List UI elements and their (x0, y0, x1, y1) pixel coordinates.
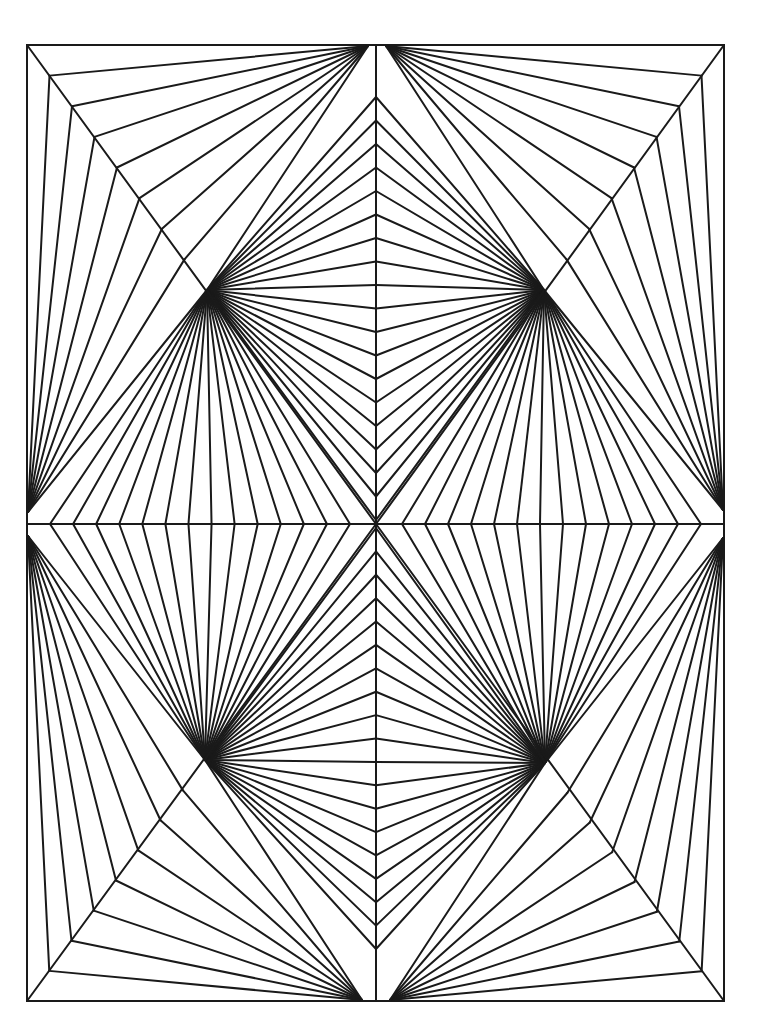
fan-line-to-vertical-axis (205, 760, 376, 832)
fan-line-to-horizontal-axis (188, 524, 205, 760)
fan-line-to-vertical-axis (376, 168, 544, 291)
fan-line-to-vertical-axis (376, 551, 545, 763)
fan-line-to-vertical-axis (207, 290, 376, 473)
fan-line-to-horizontal-axis (544, 290, 701, 524)
fan-line-to-horizontal-axis (50, 524, 205, 760)
fan-line-to-horizontal-axis (425, 524, 545, 763)
fan-line-to-vertical-axis (207, 97, 376, 290)
fan-line-to-vertical-axis (376, 763, 545, 902)
fan-line-to-vertical-axis (205, 760, 376, 879)
fan-line-to-vertical-axis (205, 760, 376, 762)
fan-line-to-horizontal-axis (205, 524, 212, 760)
fan-line-to-vertical-axis (376, 97, 544, 290)
fan-line-to-vertical-axis (376, 763, 545, 855)
fan-line-edge-to-diagonal (50, 46, 369, 76)
fan-line-edge-to-diagonal (386, 46, 702, 76)
fan-line-side-to-diagonal (28, 536, 116, 881)
fan-line-edge-to-diagonal (49, 971, 362, 1000)
fan-line-to-horizontal-axis (545, 524, 632, 763)
fan-line-to-vertical-axis (205, 551, 376, 760)
fan-line-to-vertical-axis (376, 763, 545, 926)
fan-line-to-horizontal-axis (205, 524, 327, 760)
fan-line-edge-to-diagonal (116, 881, 362, 1001)
line-art-drawing (0, 0, 759, 1033)
fan-line-to-vertical-axis (376, 763, 545, 949)
fan-line-edge-to-diagonal (390, 882, 635, 1000)
fan-line-to-vertical-axis (376, 575, 545, 763)
fan-line-to-vertical-axis (207, 290, 376, 497)
fan-line-edge-to-diagonal (386, 46, 634, 168)
fan-line-to-horizontal-axis (119, 524, 205, 760)
fan-line-to-horizontal-axis (119, 290, 207, 524)
fan-line-to-vertical-axis (205, 760, 376, 855)
fan-line-to-horizontal-axis (207, 290, 327, 524)
fan-line-to-vertical-axis (376, 762, 545, 763)
fan-line-to-vertical-axis (376, 290, 544, 497)
fan-line-to-vertical-axis (205, 760, 376, 949)
fan-line-to-vertical-axis (376, 290, 544, 379)
fan-line-side-to-diagonal (28, 168, 117, 513)
fan-line-to-horizontal-axis (50, 290, 207, 524)
quadrant-diagonal (27, 45, 376, 524)
fan-line-side-to-diagonal (634, 168, 723, 511)
quadrant-diagonal (27, 524, 376, 1001)
fan-line-to-horizontal-axis (402, 290, 544, 524)
fan-line-to-vertical-axis (207, 290, 376, 379)
fan-line-to-horizontal-axis (142, 524, 205, 760)
fan-line-to-horizontal-axis (207, 290, 350, 524)
fan-line-to-vertical-axis (376, 290, 544, 473)
fan-line-to-horizontal-axis (544, 290, 632, 524)
fan-line-side-to-diagonal (635, 538, 724, 882)
fan-line-to-horizontal-axis (545, 524, 701, 763)
fan-line-to-horizontal-axis (425, 290, 544, 524)
fan-line-to-vertical-axis (205, 575, 376, 760)
quadrant-diagonal (376, 45, 724, 524)
fan-line-to-vertical-axis (376, 645, 545, 763)
fan-line-to-vertical-axis (207, 168, 376, 291)
fan-line-edge-to-diagonal (390, 971, 702, 1000)
